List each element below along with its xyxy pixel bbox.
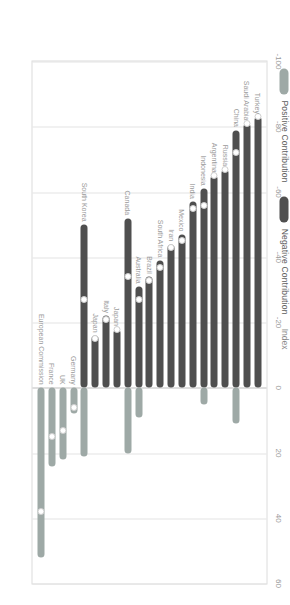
x-tick-label: 40 — [274, 513, 276, 522]
category-label: Mexico — [179, 209, 186, 234]
index-marker — [233, 149, 240, 156]
x-tick-label: 20 — [274, 448, 276, 457]
index-marker — [103, 315, 110, 322]
bar-negative — [124, 218, 131, 388]
chart-row: Japan — [111, 61, 123, 583]
chart-row: Brazil — [144, 61, 156, 583]
category-label: UK — [59, 375, 66, 388]
index-marker — [179, 237, 186, 244]
category-label: Japan — [92, 313, 99, 335]
x-tick-label: -60 — [274, 186, 276, 198]
index-marker — [38, 508, 45, 515]
category-label: Russia — [222, 144, 229, 168]
category-label: Turkey — [254, 92, 261, 116]
index-marker — [146, 276, 153, 283]
category-label: Indonesia — [200, 155, 207, 188]
bar-negative — [244, 123, 251, 387]
index-marker — [135, 296, 142, 303]
index-marker — [189, 204, 196, 211]
bar-negative — [92, 335, 99, 387]
index-marker — [81, 296, 88, 303]
chart-row: South Korea — [79, 61, 91, 583]
category-label: South Korea — [81, 182, 88, 224]
bar-negative — [114, 329, 121, 388]
chart-row: Turkey — [252, 61, 264, 583]
bar-positive — [135, 387, 142, 416]
chart-row: India — [187, 61, 199, 583]
index-marker — [157, 263, 164, 270]
category-label: South Africa — [157, 219, 164, 260]
bar-positive — [49, 387, 56, 465]
index-marker — [200, 201, 207, 208]
bar-positive — [124, 387, 131, 452]
bar-negative — [200, 188, 207, 387]
category-label: Iran — [168, 229, 175, 244]
bar-negative — [254, 116, 261, 387]
index-marker — [59, 426, 66, 433]
index-marker — [70, 403, 77, 410]
category-label: Australia — [135, 256, 142, 286]
category-label: Italy — [103, 300, 110, 316]
bar-positive — [38, 387, 45, 557]
category-label: European Commission — [38, 313, 45, 387]
category-label: Japan — [114, 306, 121, 328]
x-tick-label: -100 — [274, 53, 276, 69]
x-tick-label: -80 — [274, 120, 276, 132]
index-marker — [168, 243, 175, 250]
chart-row: Argentina — [209, 61, 221, 583]
x-tick-label: 0 — [274, 385, 276, 389]
bar-negative — [103, 315, 110, 387]
chart-row: Indonesia — [198, 61, 210, 583]
bar-negative — [222, 169, 229, 388]
x-tick-label: 60 — [274, 579, 276, 588]
chart-row: Saudi Arabia — [241, 61, 253, 583]
category-label: India — [189, 183, 196, 201]
bar-negative — [179, 234, 186, 387]
chart-row: Australia — [133, 61, 145, 583]
chart-row: France — [46, 61, 58, 583]
chart-container: Positive Contribution Negative Contribut… — [23, 0, 276, 605]
bar-negative — [168, 244, 175, 388]
chart-row: European Commission — [35, 61, 47, 583]
bar-positive — [233, 387, 240, 423]
chart-row: Russia — [219, 61, 231, 583]
x-tick-label: -40 — [274, 251, 276, 263]
chart-row: South Africa — [154, 61, 166, 583]
bar-negative — [157, 260, 164, 387]
bar-negative — [81, 224, 88, 387]
index-marker — [92, 335, 99, 342]
category-label: Saudi Arabia — [244, 80, 251, 123]
index-marker — [124, 273, 131, 280]
bar-positive — [81, 387, 88, 456]
bar-negative — [233, 130, 240, 388]
chart-row: UK — [57, 61, 69, 583]
chart-row: Iran — [165, 61, 177, 583]
bar-negative — [146, 276, 153, 387]
bar-negative — [211, 175, 218, 387]
chart-row: Germany — [68, 61, 80, 583]
chart-stage: Positive Contribution Negative Contribut… — [23, 0, 276, 605]
bar-positive — [200, 387, 207, 403]
category-label: Germany — [70, 355, 77, 387]
plot-area: -100-80-60-40-200204060TurkeySaudi Arabi… — [32, 60, 268, 584]
category-label: Canada — [124, 190, 131, 218]
chart-row: China — [230, 61, 242, 583]
category-label: France — [49, 362, 56, 387]
chart-row: Mexico — [176, 61, 188, 583]
chart-row: Canada — [122, 61, 134, 583]
chart-row: Italy — [100, 61, 112, 583]
category-label: Argentina — [211, 142, 218, 175]
category-label: Brazil — [146, 256, 153, 277]
bar-positive — [59, 387, 66, 459]
bar-negative — [189, 201, 196, 387]
x-tick-label: -20 — [274, 316, 276, 328]
category-label: China — [233, 108, 240, 129]
chart-row: Japan — [89, 61, 101, 583]
index-marker — [49, 433, 56, 440]
